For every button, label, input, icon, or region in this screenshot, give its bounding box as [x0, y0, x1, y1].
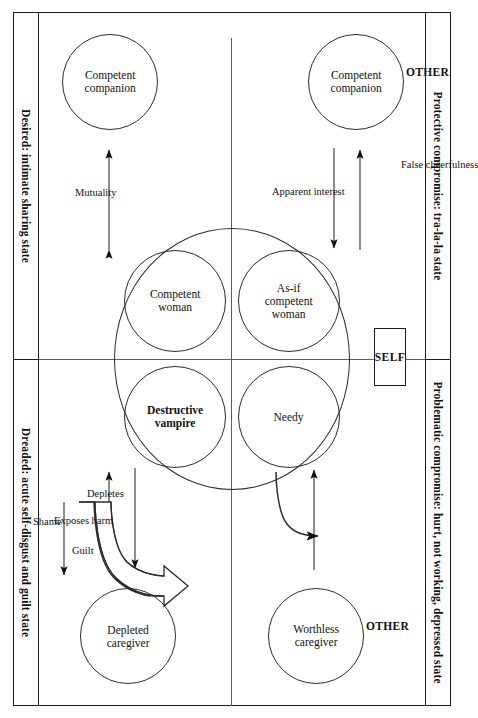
circle-label-line1: Worthless [293, 623, 339, 636]
arrow-label-depletes: Depletes [87, 488, 124, 499]
self-label-text: SELF [375, 351, 405, 363]
circle-label-line1: Competent [84, 69, 135, 82]
arrow-needy-curved-loop [276, 472, 318, 536]
circle-label-line2: woman [150, 301, 200, 314]
self-circle-competent-woman[interactable]: Competent woman [124, 250, 226, 352]
circle-label-line1: Needy [274, 411, 304, 424]
arrow-label-false-cheerfulness: False cheerfulness [401, 159, 478, 170]
circle-label-line2: companion [84, 82, 135, 95]
self-label-box: SELF [374, 328, 406, 386]
self-circle-needy[interactable]: Needy [238, 366, 340, 468]
other-circle-depleted-caregiver[interactable]: Depleted caregiver [80, 588, 176, 684]
arrow-label-guilt: Guilt [72, 545, 94, 556]
circle-label-line1: Destructive [147, 404, 203, 417]
circle-label-line1: Competent [330, 69, 381, 82]
circle-label-line1: As-if [265, 282, 313, 295]
circle-label-line1: Depleted [107, 623, 150, 636]
circle-label-line2: competent [265, 295, 313, 308]
circle-label-line1: Competent [150, 288, 200, 301]
arrow-label-mutuality: Mutuality [75, 187, 116, 198]
circle-label-line2: caregiver [293, 636, 339, 649]
other-label-lower: OTHER [366, 620, 409, 632]
circle-label-line2: vampire [147, 417, 203, 430]
arrow-label-shame: Shame [33, 516, 62, 527]
self-circle-destructive-vampire[interactable]: Destructive vampire [124, 366, 226, 468]
circle-label-line2: companion [330, 82, 381, 95]
other-label-upper: OTHER [406, 66, 449, 78]
self-circle-as-if-competent-woman[interactable]: As-if competent woman [238, 250, 340, 352]
arrow-label-exposes-harm: Exposes harm [54, 515, 113, 526]
other-circle-worthless-caregiver[interactable]: Worthless caregiver [268, 588, 364, 684]
other-circle-competent-companion-upper[interactable]: Competent companion [308, 34, 404, 130]
circle-label-line2: caregiver [107, 636, 150, 649]
circle-label-line3: woman [265, 307, 313, 320]
other-circle-competent-companion-lower[interactable]: Competent companion [62, 34, 158, 130]
arrow-label-apparent-interest: Apparent interest [272, 186, 345, 197]
